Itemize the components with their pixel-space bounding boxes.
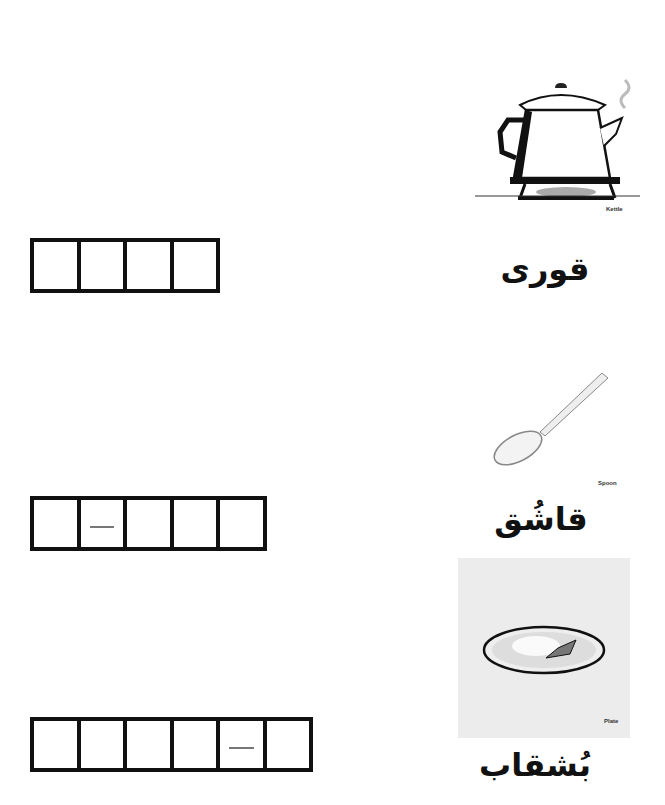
letter-box[interactable] [174, 721, 221, 768]
word-kettle: قوری [480, 250, 610, 288]
plate-image [458, 558, 630, 738]
letter-boxes-plate [30, 717, 313, 772]
word-plate: بُشقاب [470, 746, 600, 784]
letter-box[interactable] [127, 242, 174, 289]
caption-spoon: Spoon [598, 480, 617, 486]
letter-box[interactable] [174, 242, 217, 289]
letter-box[interactable] [34, 500, 81, 547]
letter-box[interactable] [127, 721, 174, 768]
spoon-image [490, 368, 610, 468]
letter-box[interactable] [34, 242, 81, 289]
letter-box[interactable] [81, 500, 128, 547]
letter-boxes-kettle [30, 238, 220, 293]
letter-box[interactable] [81, 721, 128, 768]
dash-marker [90, 526, 115, 528]
letter-box[interactable] [220, 500, 263, 547]
letter-box[interactable] [81, 242, 128, 289]
letter-box[interactable] [34, 721, 81, 768]
letter-box[interactable] [127, 500, 174, 547]
word-spoon: قاشُق [476, 500, 606, 538]
letter-box[interactable] [267, 721, 310, 768]
letter-box[interactable] [174, 500, 221, 547]
caption-plate: Plate [604, 718, 618, 724]
caption-kettle: Kettle [606, 206, 623, 212]
kettle-image [470, 70, 640, 205]
letter-box[interactable] [220, 721, 267, 768]
dash-marker [229, 747, 254, 749]
letter-boxes-spoon [30, 496, 267, 551]
